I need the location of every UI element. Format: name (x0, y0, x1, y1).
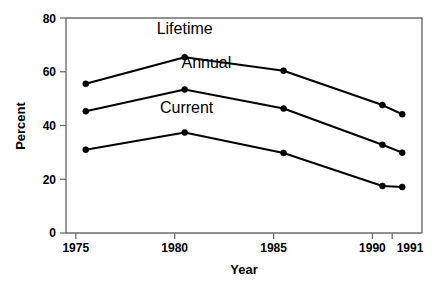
x-tick-label-1991: 1991 (397, 241, 424, 255)
x-tick-label-1985: 1985 (260, 241, 287, 255)
data-point (281, 150, 287, 156)
data-point (399, 111, 405, 117)
x-axis-tick-labels: 1975 1980 1985 1990 1991 (62, 241, 423, 255)
x-axis-ticks (76, 233, 392, 239)
x-tick-label-1980: 1980 (161, 241, 188, 255)
data-point (379, 102, 385, 108)
series-lifetime: Lifetime (83, 20, 405, 117)
y-axis-title: Percent (13, 101, 28, 149)
chart-canvas: 0 20 40 60 80 Percent 1975 1980 1985 199… (0, 0, 447, 284)
y-tick-label-80: 80 (43, 12, 57, 26)
data-point (399, 150, 405, 156)
plot-frame (66, 18, 422, 233)
y-axis-ticks (60, 18, 66, 233)
frame-path (66, 18, 422, 233)
line-chart-figure: 0 20 40 60 80 Percent 1975 1980 1985 199… (0, 0, 447, 284)
y-tick-label-0: 0 (49, 226, 56, 240)
data-point (83, 81, 89, 87)
x-tick-label-1975: 1975 (62, 241, 89, 255)
series-label-current: Current (160, 99, 214, 116)
data-point (281, 68, 287, 74)
x-axis-title: Year (230, 262, 257, 277)
series-line-current (86, 132, 402, 187)
data-point (281, 106, 287, 112)
series-label-lifetime: Lifetime (157, 20, 213, 37)
data-point (83, 108, 89, 114)
series-label-annual: Annual (182, 54, 232, 71)
data-point (182, 129, 188, 135)
series-line-annual (86, 89, 402, 152)
data-point (399, 184, 405, 190)
y-axis-tick-labels: 0 20 40 60 80 (43, 12, 57, 241)
data-point (379, 183, 385, 189)
series-line-lifetime (86, 57, 402, 114)
y-tick-label-20: 20 (43, 173, 57, 187)
data-point (379, 142, 385, 148)
data-point (83, 147, 89, 153)
data-series-layer: LifetimeAnnualCurrent (83, 20, 405, 190)
series-current: Current (83, 99, 405, 190)
y-tick-label-60: 60 (43, 65, 57, 79)
data-point (182, 86, 188, 92)
series-annual: Annual (83, 54, 405, 156)
y-tick-label-40: 40 (43, 119, 57, 133)
x-tick-label-1990: 1990 (359, 241, 386, 255)
